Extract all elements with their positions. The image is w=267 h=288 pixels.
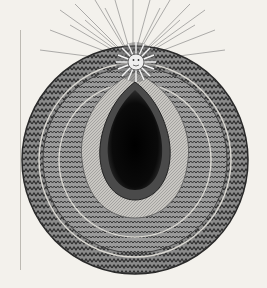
sun-with-face	[116, 42, 156, 82]
engraving-illustration	[0, 0, 267, 288]
engraving-canvas	[0, 0, 267, 288]
